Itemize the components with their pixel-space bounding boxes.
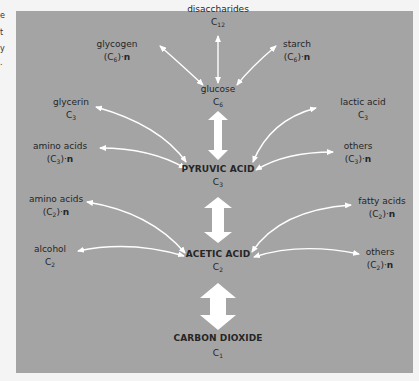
formula-subscript: 1 (219, 352, 223, 359)
node-carbon-dioxide: CARBON DIOXIDE C1 (173, 332, 262, 362)
label-text: fatty acids (358, 195, 405, 208)
label-text: amino acids (29, 193, 83, 206)
thick-arrow-acetic-co2 (200, 283, 236, 330)
node-amino-acids-c2: amino acids (C2)·n (29, 193, 83, 221)
thick-arrow-pyruvic-acetic (204, 197, 232, 243)
label-text: lactic acid (340, 96, 385, 109)
label-text: (C (47, 154, 57, 164)
formula-subscript: 6 (219, 101, 223, 108)
arrow-starch-glucose (237, 46, 276, 85)
label-text: n (389, 209, 395, 219)
node-glycerin: glycerin C3 (53, 96, 89, 124)
label-text: n (63, 207, 69, 217)
label-text: (C2)·n (366, 259, 395, 274)
label-text: (C (43, 207, 53, 217)
formula-subscript: 3 (72, 114, 76, 121)
formula-subscript: 12 (217, 21, 225, 28)
node-glycogen: glycogen (C6)·n (97, 38, 138, 66)
label-text: n (304, 52, 310, 62)
label-text: alcohol (34, 243, 66, 256)
node-glucose: glucose C6 (201, 83, 236, 111)
label-text: n (387, 260, 393, 270)
arrow-others-c2-acetic (254, 249, 359, 257)
arrow-others-c3-pyruvic (256, 152, 333, 170)
node-disaccharides: disaccharides C12 (187, 3, 249, 31)
label-text: glycogen (97, 38, 138, 51)
label-text: CARBON DIOXIDE (173, 332, 262, 345)
label-text: (C (345, 154, 355, 164)
node-acetic-acid: ACETIC ACID C2 (186, 248, 250, 276)
thick-arrow-glucose-pyruvic (208, 111, 228, 160)
label-text: (C (367, 260, 377, 270)
label-text: ACETIC ACID (186, 248, 250, 261)
arrow-fatty-acids-acetic (252, 205, 351, 252)
arrow-amino-c3-pyruvic (100, 148, 185, 168)
label-text: n (365, 154, 371, 164)
arrow-glycerin-pyruvic (96, 107, 186, 162)
label-text: glycerin (53, 96, 89, 109)
label-text: (C3)·n (344, 153, 373, 168)
label-text: C3 (340, 109, 385, 124)
label-text: disaccharides (187, 3, 249, 16)
label-text: (C2)·n (358, 208, 405, 223)
label-text: C3 (53, 109, 89, 124)
label-text: (C6)·n (283, 51, 311, 66)
label-text: (C (284, 52, 294, 62)
label-text: C12 (187, 16, 249, 31)
label-text: C3 (182, 176, 255, 191)
node-alcohol: alcohol C2 (34, 243, 66, 271)
arrow-alcohol-acetic (78, 247, 184, 256)
label-text: C2 (186, 261, 250, 276)
label-text: PYRUVIC ACID (182, 163, 255, 176)
formula-subscript: 2 (219, 266, 223, 273)
node-lactic-acid: lactic acid C3 (340, 96, 385, 124)
label-text: (C3)·n (33, 153, 87, 168)
label-text: n (124, 52, 130, 62)
label-text: glucose (201, 83, 236, 96)
label-text: (C2)·n (29, 206, 83, 221)
label-text: (C (104, 52, 114, 62)
node-fatty-acids: fatty acids (C2)·n (358, 195, 405, 223)
label-text: C6 (201, 96, 236, 111)
label-text: C1 (173, 347, 262, 362)
node-pyruvic-acid: PYRUVIC ACID C3 (182, 163, 255, 191)
formula-subscript: 2 (51, 261, 55, 268)
label-text: n (67, 154, 73, 164)
label-text: C2 (34, 256, 66, 271)
node-starch: starch (C6)·n (283, 38, 311, 66)
node-others-c3: others (C3)·n (344, 140, 373, 168)
label-text: starch (283, 38, 311, 51)
arrow-amino-c2-acetic (87, 202, 185, 253)
label-text: amino acids (33, 140, 87, 153)
label-text: (C (369, 209, 379, 219)
label-text: others (344, 140, 373, 153)
arrow-glycogen-glucose (160, 46, 203, 85)
label-text: others (366, 246, 395, 259)
formula-subscript: 3 (219, 181, 223, 188)
node-amino-acids-c3: amino acids (C3)·n (33, 140, 87, 168)
node-others-c2: others (C2)·n (366, 246, 395, 274)
label-text: (C6)·n (97, 51, 138, 66)
formula-subscript: 3 (364, 114, 368, 121)
